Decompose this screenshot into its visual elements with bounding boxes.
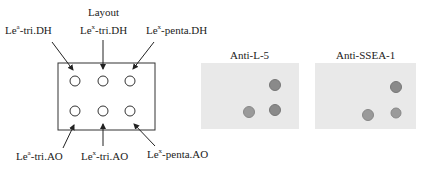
- spot-bottom-middle: [363, 110, 374, 121]
- spot-top-right: [391, 82, 402, 93]
- spot-bottom-right: [270, 105, 281, 116]
- blot-panel-anti-ssea1: [315, 63, 416, 129]
- layout-diagram: [0, 0, 200, 173]
- panel-title-anti-ssea1: Anti-SSEA-1: [336, 49, 395, 61]
- spot-bottom-middle: [244, 107, 255, 118]
- membrane-outline: [58, 63, 155, 130]
- panel-title-anti-l5: Anti-L-5: [230, 49, 269, 61]
- blot-panel-anti-l5: [201, 63, 299, 129]
- spot-bottom-right: [391, 108, 401, 118]
- spot-top-right: [270, 80, 281, 91]
